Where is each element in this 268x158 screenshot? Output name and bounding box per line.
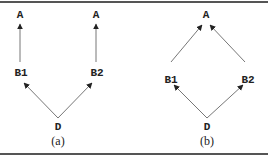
panel-a-node-b2: B2 [90,67,103,79]
edge-d-b1 [24,83,58,118]
edge-d-b2 [207,85,243,118]
panel-b-node-d: D [204,121,211,133]
panel-b-node-b1: B1 [164,74,177,86]
panel-b-caption: (b) [200,134,214,149]
panel-b-node-a: A [203,9,210,21]
panel-a-node-b1: B1 [14,67,27,79]
panel-b-edges [171,25,245,118]
edges-layer [0,0,268,158]
panel-a-edges [20,24,96,118]
panel-a-caption: (a) [51,134,64,149]
edge-d-b1 [174,85,207,118]
panel-a-node-a-right: A [93,9,100,21]
panel-b-node-b2: B2 [241,74,254,86]
edge-b1-a [171,25,202,62]
panel-a-node-a-left: A [17,9,24,21]
edge-b2-a [210,25,245,62]
panel-a-node-d: D [55,121,62,133]
edge-d-b2 [58,83,92,118]
